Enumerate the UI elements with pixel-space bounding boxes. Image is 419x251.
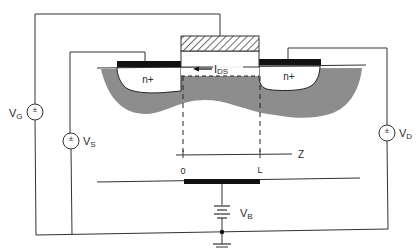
vb-label: VB: [240, 207, 253, 221]
vs-source-icon: ±: [63, 133, 79, 149]
drain-contact: [259, 59, 321, 65]
vg-source-icon: ±: [27, 104, 43, 120]
source-region-label: n+: [142, 74, 154, 85]
drain-wire-lower: [387, 141, 388, 229]
z-axis: [176, 154, 292, 155]
common-ground-wire: [36, 229, 388, 235]
ground-icon: [213, 244, 231, 247]
vd-label: VD: [399, 127, 412, 141]
z-axis-label: Z: [298, 149, 304, 160]
vd-polarity: ±: [385, 126, 390, 135]
mosfet-diagram: ± ± ± VG VS VD n+ n+ IDS Z 0 L VB: [0, 0, 419, 251]
source-wire-lower: [71, 149, 72, 235]
tick-label-0: 0: [180, 166, 185, 176]
ground-node: [220, 230, 224, 234]
vd-source-icon: ±: [379, 125, 395, 141]
drain-region-label: n+: [283, 71, 295, 82]
vg-polarity: ±: [33, 105, 38, 114]
tick-label-l: L: [257, 165, 262, 175]
vs-polarity: ±: [69, 134, 74, 143]
source-contact: [117, 61, 181, 67]
vg-label: VG: [9, 107, 23, 121]
vb-battery-icon: [214, 206, 230, 218]
gate-electrode: [181, 36, 259, 51]
vs-label: VS: [83, 135, 96, 149]
gate-wire-lower: [35, 120, 36, 235]
back-contact: [184, 179, 260, 184]
